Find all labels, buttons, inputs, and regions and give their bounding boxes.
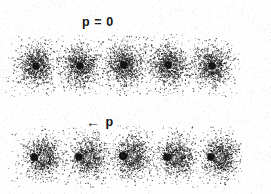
beam-spot-dot (119, 152, 127, 160)
beam-spot-dot (208, 62, 216, 70)
beam-spot-dot (207, 153, 215, 161)
beam-spot-dot (76, 62, 84, 70)
beam-spot-dot (32, 62, 40, 70)
speckle-pattern (180, 126, 242, 188)
bottom-row-label: ←p (86, 114, 114, 129)
beam-spot-dot (163, 153, 171, 161)
momentum-symbol: p (106, 115, 114, 129)
left-arrow-icon: ← (86, 114, 101, 130)
top-row-label: p = 0 (82, 16, 114, 29)
speckle-pattern-figure: p = 0 ←p (0, 0, 271, 194)
beam-spot-dot (75, 153, 83, 161)
beam-spot-dot (164, 61, 172, 69)
beam-spot-dot (120, 61, 128, 69)
beam-spot-dot (30, 153, 38, 161)
speckle-pattern (181, 35, 243, 97)
